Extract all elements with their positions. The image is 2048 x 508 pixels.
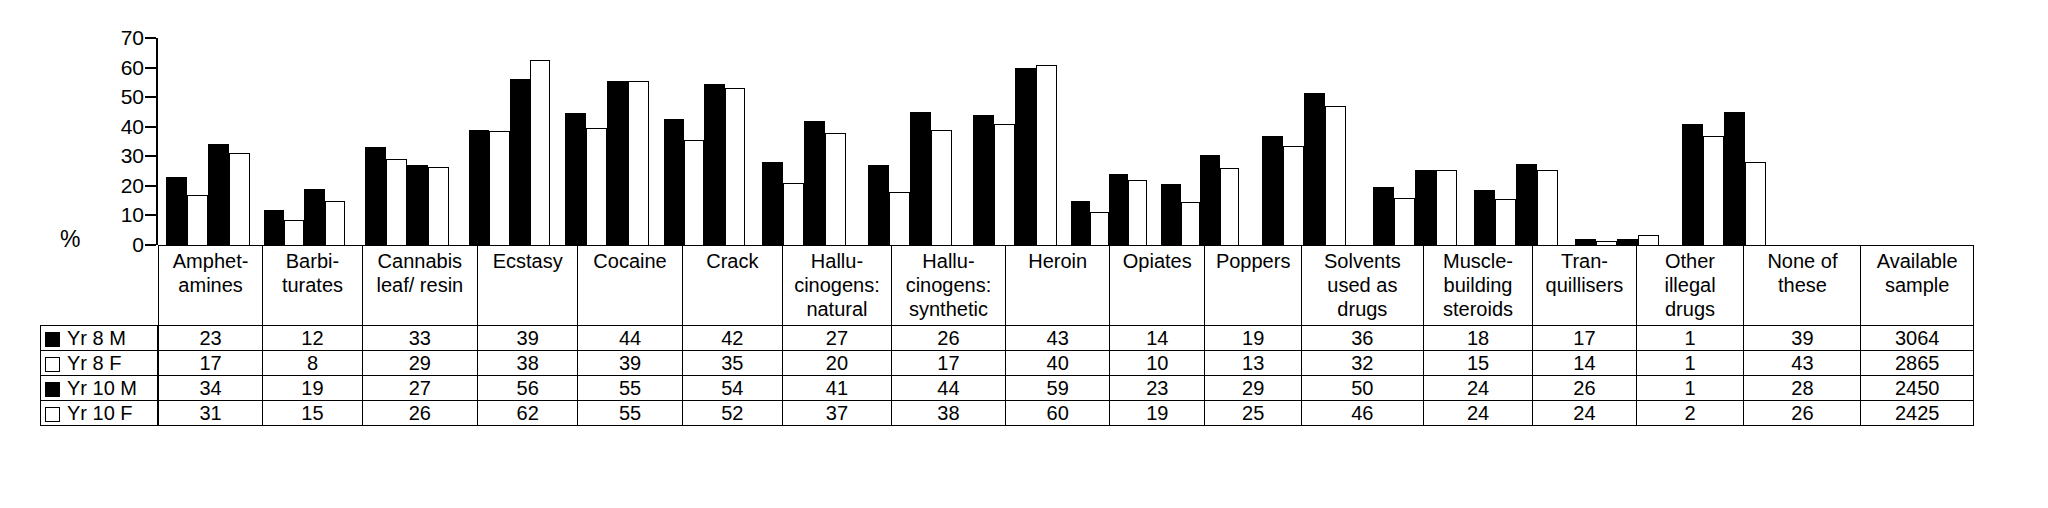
- legend-cell: Yr 10 M: [41, 376, 158, 401]
- y-axis-title: %: [60, 228, 80, 251]
- bar-group: [1566, 38, 1669, 245]
- table-cell: 19: [1110, 401, 1205, 426]
- bar: [1325, 106, 1346, 245]
- column-header: Opiates: [1110, 246, 1205, 326]
- table-cell: 25: [1205, 401, 1302, 426]
- y-axis-tick: [145, 67, 156, 69]
- legend-cell: Yr 10 F: [41, 401, 158, 426]
- bar: [1304, 93, 1325, 245]
- table-cell: 1: [1636, 326, 1744, 351]
- legend-label: Yr 10 M: [67, 377, 137, 399]
- bar: [1015, 68, 1036, 245]
- table-cell: 23: [159, 326, 263, 351]
- table-cell: 38: [477, 351, 577, 376]
- bar: [187, 195, 208, 245]
- bar: [469, 130, 489, 245]
- filled-square-icon: [45, 382, 60, 397]
- bar-group: [965, 38, 1064, 245]
- table-cell: 62: [477, 401, 577, 426]
- table-cell: 24: [1423, 401, 1533, 426]
- column-header-line: Poppers: [1207, 249, 1299, 273]
- table-cell: 39: [477, 326, 577, 351]
- plot-area: [158, 38, 1888, 245]
- table-row: 23123339444227264314193618171393064: [159, 326, 1974, 351]
- y-tick-label: 30: [121, 145, 144, 166]
- bar: [607, 81, 628, 245]
- column-header: Barbi-turates: [263, 246, 363, 326]
- table-cell: 1: [1636, 376, 1744, 401]
- table-cell: 14: [1533, 351, 1636, 376]
- legend-cell: Yr 8 M: [41, 326, 158, 351]
- bar: [304, 189, 324, 245]
- column-header-line: Tran-: [1535, 249, 1633, 273]
- bar-group: [158, 38, 257, 245]
- bar: [284, 220, 304, 245]
- table-cell: 37: [783, 401, 892, 426]
- table-cell: 10: [1110, 351, 1205, 376]
- table-cell: 28: [1744, 376, 1861, 401]
- column-header: Ecstasy: [477, 246, 577, 326]
- legend-label: Yr 8 M: [67, 327, 126, 349]
- y-axis-tick: [145, 214, 156, 216]
- bar: [1394, 198, 1415, 245]
- table-cell: 42: [682, 326, 782, 351]
- table-cell: 43: [1744, 351, 1861, 376]
- column-header-line: Solvents: [1304, 249, 1421, 273]
- bar: [1090, 212, 1109, 245]
- column-header-line: Cannabis: [365, 249, 475, 273]
- column-header-line: cinogens:: [785, 273, 889, 297]
- open-square-icon: [45, 357, 60, 372]
- column-header: Otherillegal drugs: [1636, 246, 1744, 326]
- column-header: Cannabisleaf/ resin: [362, 246, 477, 326]
- column-header-line: Muscle-: [1426, 249, 1531, 273]
- table-cell: 15: [263, 401, 363, 426]
- table-cell: 36: [1302, 326, 1424, 351]
- column-header-line: steroids: [1426, 297, 1531, 321]
- column-header-line: amines: [161, 273, 260, 297]
- y-axis-tick-labels: 010203040506070: [60, 38, 144, 245]
- column-header-line: illegal drugs: [1639, 273, 1742, 321]
- bar: [510, 79, 530, 245]
- legend-label: Yr 10 F: [67, 402, 133, 424]
- table-cell: 13: [1205, 351, 1302, 376]
- table-cell: 34: [159, 376, 263, 401]
- column-header: Cocaine: [578, 246, 682, 326]
- column-header-line: sample: [1863, 273, 1970, 297]
- table-cell: 52: [682, 401, 782, 426]
- column-header: Amphet-amines: [159, 246, 263, 326]
- table-cell: 46: [1302, 401, 1424, 426]
- legend-cell: Yr 8 F: [41, 351, 158, 376]
- table-cell: 59: [1006, 376, 1110, 401]
- table-cell: 31: [159, 401, 263, 426]
- bar-group: [752, 38, 856, 245]
- column-header-line: natural: [785, 297, 889, 321]
- table-cell: 38: [891, 401, 1005, 426]
- table-cell: 55: [578, 376, 682, 401]
- column-header: Muscle-buildingsteroids: [1423, 246, 1533, 326]
- column-header: Heroin: [1006, 246, 1110, 326]
- bar: [1415, 170, 1436, 245]
- bar-group: [1363, 38, 1468, 245]
- y-tick-label: 40: [121, 116, 144, 137]
- table-cell: 2: [1636, 401, 1744, 426]
- table-cell: 56: [477, 376, 577, 401]
- bar: [783, 183, 804, 245]
- column-header-line: Amphet-: [161, 249, 260, 273]
- table-cell: 32: [1302, 351, 1424, 376]
- bar: [1373, 187, 1394, 245]
- bar: [1109, 174, 1128, 245]
- column-header-line: Available: [1863, 249, 1970, 273]
- table-cell: 26: [1744, 401, 1861, 426]
- bar: [166, 177, 187, 245]
- column-header: Solventsused as drugs: [1302, 246, 1424, 326]
- table-cell: 29: [362, 351, 477, 376]
- table-cell: 8: [263, 351, 363, 376]
- column-header: None of these: [1744, 246, 1861, 326]
- bar: [704, 84, 724, 245]
- y-tick-label: 10: [121, 204, 144, 225]
- table-cell: 39: [1744, 326, 1861, 351]
- bar: [428, 167, 449, 245]
- bar: [1071, 201, 1090, 245]
- bar: [910, 112, 931, 245]
- column-header-line: quillisers: [1535, 273, 1633, 297]
